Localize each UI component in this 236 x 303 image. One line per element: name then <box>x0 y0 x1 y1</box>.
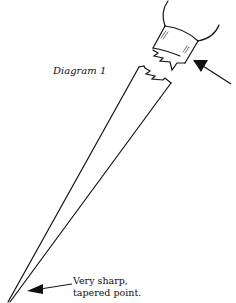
diagram-title: Diagram 1 <box>53 65 106 76</box>
holder-left-curve <box>163 1 168 26</box>
socket-arrow-icon <box>193 60 231 84</box>
socket-right-edge <box>185 41 198 63</box>
tip-arrow-icon <box>27 284 72 294</box>
socket-jagged-break <box>153 48 185 70</box>
annotation-line-2: tapered point. <box>73 287 141 299</box>
holder-right-curve <box>198 25 219 41</box>
socket-left-edge <box>153 26 165 48</box>
annotation-line-1: Very sharp, <box>73 275 141 287</box>
tip-annotation: Very sharp, tapered point. <box>73 275 141 299</box>
shaft-right-line <box>10 83 171 302</box>
socket-top-edge <box>165 26 198 41</box>
diagram-drawing <box>0 0 236 303</box>
socket-glint-right <box>183 46 189 53</box>
shaft-left-line <box>8 67 139 302</box>
shaft-jagged-break <box>139 66 171 83</box>
